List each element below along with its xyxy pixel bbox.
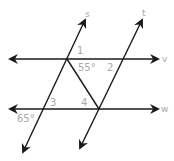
line-s bbox=[23, 20, 85, 152]
label-w: w bbox=[161, 104, 168, 114]
angle-1-label: 1 bbox=[77, 45, 83, 56]
label-v: v bbox=[162, 54, 168, 64]
line-t bbox=[80, 20, 142, 148]
angle-65-label: 65° bbox=[17, 113, 35, 124]
label-s: s bbox=[85, 9, 90, 19]
label-t: t bbox=[142, 8, 146, 18]
angle-2-label: 2 bbox=[107, 62, 113, 73]
angle-4-label: 4 bbox=[81, 97, 87, 108]
angle-55-label: 55° bbox=[78, 62, 96, 73]
angle-3-label: 3 bbox=[50, 97, 56, 108]
geometry-diagram: s t v w 1 55° 2 3 4 65° bbox=[0, 0, 174, 161]
